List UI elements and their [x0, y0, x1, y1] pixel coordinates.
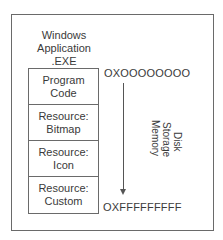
- arrow-line: [123, 83, 124, 191]
- exe-title: Windows Application .EXE: [26, 29, 102, 68]
- segment-label: Bitmap: [38, 123, 88, 136]
- label-line-3: Memory: [150, 120, 161, 156]
- arrow-down-icon: [120, 189, 126, 195]
- title-line-2: Application: [26, 42, 102, 55]
- end-address: OXFFFFFFFFF: [103, 201, 182, 213]
- title-line-1: Windows: [26, 29, 102, 42]
- title-line-3: .EXE: [26, 55, 102, 68]
- segment-label: Program: [42, 74, 84, 87]
- segment-label: Code: [42, 87, 84, 100]
- segment-label: Resource:: [38, 182, 88, 195]
- exe-segment-stack: Program Code Resource: Bitmap Resource: …: [28, 68, 99, 214]
- segment-program-code: Program Code: [29, 69, 98, 105]
- segment-label: Custom: [38, 195, 88, 208]
- segment-label: Resource:: [38, 110, 88, 123]
- start-address: OXOOOOOOOO: [104, 67, 190, 79]
- segment-resource-bitmap: Resource: Bitmap: [29, 105, 98, 141]
- segment-resource-custom: Resource: Custom: [29, 177, 98, 212]
- segment-resource-icon: Resource: Icon: [29, 141, 98, 177]
- disk-storage-memory-label: Disk Storage Memory: [150, 120, 200, 172]
- segment-label: Icon: [38, 159, 88, 172]
- label-line-1: Disk: [172, 132, 183, 151]
- segment-label: Resource:: [38, 146, 88, 159]
- label-line-2: Storage: [161, 122, 172, 157]
